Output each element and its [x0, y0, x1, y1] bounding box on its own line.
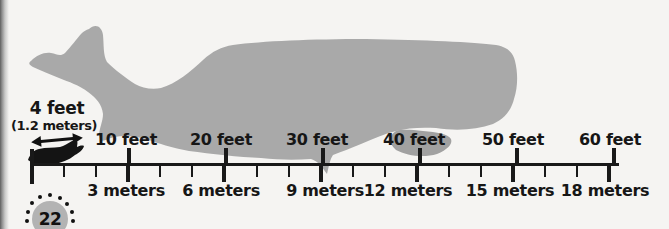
meter-tick-minor	[288, 163, 290, 177]
callout-meters-label: (1.2 meters)	[11, 118, 97, 133]
book-page: 4 feet (1.2 meters)	[0, 0, 669, 229]
ruler-zero-tick	[30, 149, 34, 184]
meter-tick-minor	[256, 163, 258, 177]
callout-feet-label: 4 feet	[30, 98, 85, 118]
meter-tick-12	[415, 163, 419, 182]
badge-dot	[25, 219, 29, 223]
feet-label-20: 20 feet	[190, 130, 252, 149]
badge-dot	[38, 195, 42, 199]
feet-label-60: 60 feet	[579, 130, 641, 149]
meter-label-12: 12 meters	[364, 181, 453, 200]
feet-label-50: 50 feet	[482, 130, 544, 149]
meter-tick-minor	[448, 163, 450, 177]
meter-tick-9	[319, 163, 323, 182]
badge-dot	[70, 210, 74, 214]
meter-tick-minor	[544, 163, 546, 177]
feet-tick-60	[612, 148, 616, 166]
badge-dot	[71, 219, 75, 223]
meter-tick-6	[222, 163, 226, 182]
meter-tick-15	[511, 163, 515, 182]
feet-label-40: 40 feet	[383, 130, 445, 149]
meter-tick-minor	[384, 163, 386, 177]
badge-dot	[65, 202, 69, 206]
meter-tick-minor	[95, 163, 97, 177]
feet-tick-50	[515, 148, 519, 166]
meter-tick-minor	[576, 163, 578, 177]
whale-body	[29, 26, 517, 174]
meter-label-18: 18 meters	[561, 181, 650, 200]
meter-label-9: 9 meters	[286, 181, 364, 200]
meter-tick-minor	[159, 163, 161, 177]
meter-tick-minor	[63, 163, 65, 177]
meter-tick-minor	[191, 163, 193, 177]
meter-tick-18	[607, 163, 611, 182]
meter-tick-3	[126, 163, 130, 182]
badge-dot	[48, 193, 52, 197]
feet-label-30: 30 feet	[286, 130, 348, 149]
feet-label-10: 10 feet	[95, 130, 157, 149]
meter-label-3: 3 meters	[87, 181, 165, 200]
badge-dot	[26, 210, 30, 214]
badge-dot	[58, 196, 62, 200]
meter-label-15: 15 meters	[466, 181, 555, 200]
meter-tick-minor	[480, 163, 482, 177]
meter-label-6: 6 meters	[182, 181, 260, 200]
badge-dot	[30, 201, 34, 205]
meter-tick-minor	[352, 163, 354, 177]
page-number: 22	[39, 209, 62, 229]
